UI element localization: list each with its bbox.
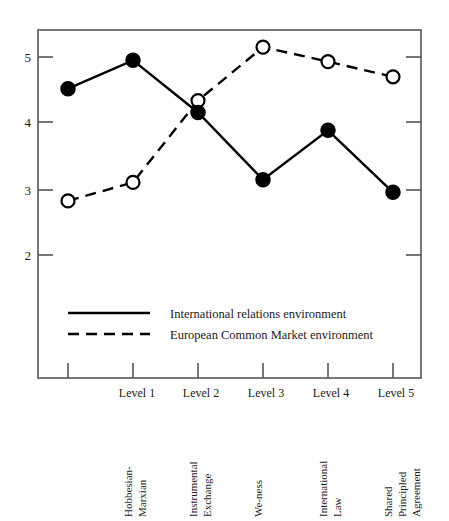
category-line: Law [331,497,343,517]
data-point [127,176,140,189]
level-label-5: Level 5 [378,386,414,400]
category-line: Instrumental [187,461,199,517]
category-line: International [317,461,329,517]
data-point [386,185,400,199]
category-line: We-ness [252,480,264,517]
legend-label-1: European Common Market environment [170,328,374,342]
level-label-2: Level 2 [183,386,219,400]
category-line: Marxian [136,479,148,517]
data-point [387,70,400,83]
data-point [256,173,270,187]
data-point [191,105,205,119]
line-chart: 5 4 3 2 Level 1 Level 2 Level 3 Level 4 … [0,0,449,521]
y-tick-label-5: 5 [25,50,32,65]
y-tick-label-4: 4 [25,115,32,130]
data-point [62,194,75,207]
level-label-3: Level 3 [248,386,284,400]
category-label-we-ness: We-ness [252,480,264,517]
category-line: Agreement [410,468,422,517]
category-line: Hobbesian- [122,466,134,517]
category-line: Exchange [201,474,213,517]
data-point [322,55,335,68]
data-point [257,41,270,54]
data-point [321,123,335,137]
chart-figure: 5 4 3 2 Level 1 Level 2 Level 3 Level 4 … [0,0,449,521]
category-line: Shared [382,486,394,517]
data-point [126,53,140,67]
y-tick-label-2: 2 [25,248,32,263]
level-label-1: Level 1 [119,386,155,400]
category-line: Principled [396,471,408,517]
legend-label-0: International relations environment [170,307,347,321]
level-label-4: Level 4 [313,386,349,400]
y-tick-label-3: 3 [25,183,32,198]
data-point [61,82,75,96]
